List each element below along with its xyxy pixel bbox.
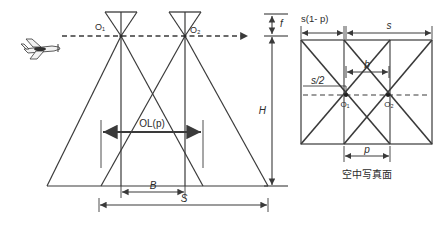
s-label: S [181, 193, 188, 204]
station-o1-dot [119, 34, 122, 37]
photo-o1-label: O₁ [341, 100, 350, 109]
photo-plane-caption: 空中写真面 [342, 168, 392, 180]
photo-o2-label: O₂ [384, 100, 393, 109]
b-label-right-panel: b [364, 59, 370, 70]
photo-o1-dot [344, 93, 348, 97]
p-label: p [363, 144, 370, 155]
diagram-canvas: O₁ O₂ OL(p) B S f H [0, 0, 439, 225]
station-o2-dot [183, 34, 186, 37]
photogrammetry-diagram: O₁ O₂ OL(p) B S f H [0, 0, 439, 225]
b-label: B [150, 180, 157, 191]
s-label-right-panel: s [387, 20, 392, 31]
canvas-background [0, 0, 439, 225]
h-label: H [259, 105, 267, 116]
station-o2-label: O₂ [190, 25, 201, 35]
s1mp-label: s(1- p) [301, 13, 328, 24]
station-o1-label: O₁ [95, 22, 105, 32]
s-half-label: s/2 [311, 75, 325, 86]
photo-o2-dot [386, 93, 390, 97]
airplane-cabin [34, 47, 46, 51]
olp-label: OL(p) [139, 118, 165, 129]
